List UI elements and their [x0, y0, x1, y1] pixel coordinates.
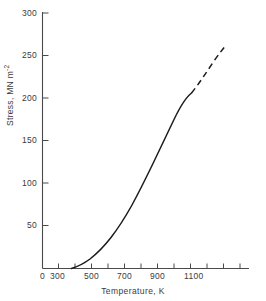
x-tick-label-0: 0: [40, 272, 45, 281]
y-axis-title: Stress, MN m-2: [4, 112, 14, 126]
x-tick-label-500: 500: [84, 272, 99, 281]
stress-curve-dashed-extrapolation: [192, 47, 225, 93]
stress-curve-solid: [72, 93, 192, 269]
y-axis-title-exponent: -2: [3, 65, 10, 71]
x-tick-label-300: 300: [50, 272, 65, 281]
x-axis-title: Temperature, K: [0, 287, 266, 296]
x-tick-label-1100: 1100: [184, 272, 203, 281]
y-tick-label-100: 100: [22, 179, 37, 188]
x-tick-label-700: 700: [117, 272, 132, 281]
y-axis-ticks: [43, 13, 49, 226]
y-tick-label-300: 300: [22, 9, 37, 18]
y-axis-title-base: Stress, MN m: [5, 71, 15, 126]
y-tick-label-250: 250: [22, 51, 37, 60]
x-tick-label-900: 900: [150, 272, 165, 281]
stress-temperature-plot: [0, 0, 266, 301]
y-tick-label-200: 200: [22, 94, 37, 103]
chart-container: 300 250 200 150 100 50 0 300 500 700 900…: [0, 0, 266, 301]
y-tick-label-50: 50: [27, 221, 37, 230]
y-tick-label-150: 150: [22, 136, 37, 145]
x-axis-ticks: [59, 264, 241, 269]
